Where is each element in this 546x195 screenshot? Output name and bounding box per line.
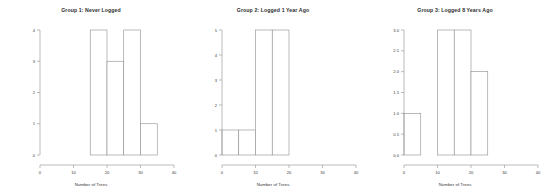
y-axis-tick-label: 0.0 (393, 153, 399, 158)
histogram-bar (107, 61, 124, 155)
histogram-bar (124, 30, 141, 155)
chart-panel-group-3: Group 3: Logged 8 Years Ago 0.00.51.01.5… (364, 0, 546, 195)
x-axis-tick-label: 20 (105, 170, 110, 175)
x-axis-title: Number of Trees (182, 182, 364, 187)
histogram-panel-figure: Group 1: Never Logged 01234010203040 Num… (0, 0, 546, 195)
histogram-bar (404, 113, 421, 155)
histogram-bar (471, 72, 488, 155)
plot-area-group-2: 012345010203040 (182, 0, 364, 195)
y-axis-tick-label: 1 (33, 121, 36, 126)
x-axis-tick-label: 20 (469, 170, 474, 175)
histogram-bar (239, 130, 256, 155)
y-axis-tick-label: 4 (215, 53, 218, 58)
x-axis-tick-label: 0 (221, 170, 224, 175)
y-axis-tick-label: 2 (215, 103, 218, 108)
chart-svg: 01234010203040 (0, 0, 182, 195)
histogram-bar (438, 30, 455, 155)
x-axis-title: Number of Trees (364, 182, 546, 187)
y-axis-tick-label: 2.5 (393, 48, 399, 53)
x-axis-tick-label: 10 (253, 170, 258, 175)
histogram-bar (141, 124, 158, 155)
y-axis-tick-label: 0 (33, 153, 36, 158)
histogram-bar (272, 30, 289, 155)
x-axis-tick-label: 30 (138, 170, 143, 175)
histogram-bar (222, 130, 239, 155)
x-axis-tick-label: 40 (536, 170, 541, 175)
chart-panel-group-2: Group 2: Logged 1 Year Ago 0123450102030… (182, 0, 364, 195)
x-axis-tick-label: 10 (435, 170, 440, 175)
x-axis-tick-label: 30 (320, 170, 325, 175)
chart-svg: 012345010203040 (182, 0, 364, 195)
plot-area-group-3: 0.00.51.01.52.02.53.0010203040 (364, 0, 546, 195)
histogram-bar (454, 30, 471, 155)
x-axis-title: Number of Trees (0, 182, 182, 187)
x-axis-tick-label: 0 (39, 170, 42, 175)
y-axis-tick-label: 2 (33, 90, 36, 95)
x-axis-tick-label: 20 (287, 170, 292, 175)
y-axis-tick-label: 3.0 (393, 28, 399, 33)
y-axis-tick-label: 1 (215, 128, 218, 133)
y-axis-tick-label: 3 (215, 78, 218, 83)
x-axis-tick-label: 0 (403, 170, 406, 175)
y-axis-tick-label: 1.5 (393, 90, 399, 95)
x-axis-tick-label: 40 (172, 170, 177, 175)
x-axis-tick-label: 40 (354, 170, 359, 175)
plot-area-group-1: 01234010203040 (0, 0, 182, 195)
y-axis-tick-label: 0 (215, 153, 218, 158)
histogram-bar (256, 30, 273, 155)
chart-panel-group-1: Group 1: Never Logged 01234010203040 Num… (0, 0, 182, 195)
y-axis-tick-label: 2.0 (393, 69, 399, 74)
y-axis-tick-label: 1.0 (393, 111, 399, 116)
y-axis-tick-label: 4 (33, 28, 36, 33)
chart-svg: 0.00.51.01.52.02.53.0010203040 (364, 0, 546, 195)
x-axis-tick-label: 30 (502, 170, 507, 175)
y-axis-tick-label: 0.5 (393, 132, 399, 137)
y-axis-tick-label: 5 (215, 28, 218, 33)
y-axis-tick-label: 3 (33, 59, 36, 64)
x-axis-tick-label: 10 (71, 170, 76, 175)
histogram-bar (90, 30, 107, 155)
